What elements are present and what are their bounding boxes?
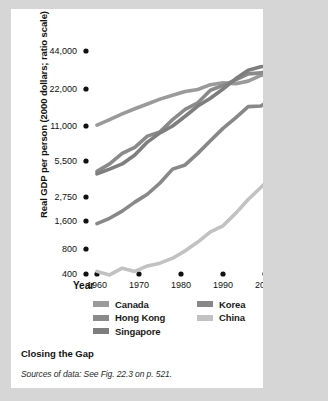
y-axis-tick-label: 5,500 xyxy=(54,156,77,166)
figure-caption-title: Closing the Gap xyxy=(21,348,94,359)
x-axis-title: Year xyxy=(73,280,94,291)
x-axis-tick-dot xyxy=(220,271,225,276)
y-axis-tick-dot xyxy=(83,246,88,251)
x-axis-tick-label: 2000 xyxy=(255,280,263,289)
legend-item: Hong Kong xyxy=(93,312,165,325)
legend-item: China xyxy=(197,312,245,325)
legend-item: Singapore xyxy=(93,325,165,338)
legend-label: China xyxy=(219,312,245,323)
y-axis-tick-dot xyxy=(83,158,88,163)
y-axis-tick-dot xyxy=(83,218,88,223)
legend-label: Hong Kong xyxy=(115,312,165,323)
legend-label: Canada xyxy=(115,299,149,310)
y-axis-tick-label: 400 xyxy=(62,269,77,279)
y-axis-tick-label: 11,000 xyxy=(50,121,77,131)
y-axis-tick-dot xyxy=(83,271,88,276)
legend-swatch-canada xyxy=(93,301,109,307)
y-axis-tick-label: 1,600 xyxy=(54,216,77,226)
chart-legend: CanadaHong KongSingapore KoreaChina xyxy=(11,298,263,342)
legend-label: Korea xyxy=(219,299,245,310)
x-axis-tick-label: 1970 xyxy=(129,280,149,289)
legend-swatch-korea xyxy=(197,301,213,307)
y-axis-tick-label: 44,000 xyxy=(49,46,77,56)
y-axis-tick-dot xyxy=(83,123,88,128)
x-axis-tick-label: 1980 xyxy=(171,280,191,289)
y-axis-tick-label: 2,750 xyxy=(54,192,77,202)
legend-swatch-china xyxy=(197,315,213,321)
legend-swatch-hong-kong xyxy=(93,315,109,321)
legend-column-right: KoreaChina xyxy=(197,298,245,325)
figure-caption-source: Sources of data: See Fig. 22.3 on p. 521… xyxy=(21,369,172,379)
y-axis-tick-label: 800 xyxy=(62,244,77,254)
x-axis-tick-label: 1990 xyxy=(213,280,233,289)
legend-swatch-singapore xyxy=(93,328,109,334)
y-axis-tick-dot xyxy=(83,48,88,53)
legend-label: Singapore xyxy=(115,326,161,337)
y-axis-tick-dot xyxy=(83,86,88,91)
y-axis-title: Real GDP per person (2000 dollars; ratio… xyxy=(38,7,49,222)
y-axis-tick-dot xyxy=(83,194,88,199)
legend-column-left: CanadaHong KongSingapore xyxy=(93,298,165,339)
x-axis-tick-dot xyxy=(262,271,263,276)
chart-plot-area: Real GDP per person (2000 dollars; ratio… xyxy=(11,9,263,289)
y-axis-tick-label: 22,000 xyxy=(49,84,77,94)
x-axis-tick-dot xyxy=(178,271,183,276)
series-line-china xyxy=(97,126,263,275)
legend-item: Canada xyxy=(93,298,165,311)
figure-card: Real GDP per person (2000 dollars; ratio… xyxy=(11,9,263,388)
legend-item: Korea xyxy=(197,298,245,311)
